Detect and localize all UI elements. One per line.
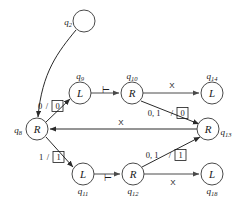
edge-label-x-bottom: X <box>170 178 176 187</box>
edge-label-write-0: 0 <box>55 101 59 111</box>
edge-label-q2-to-q8: 0 / 0 <box>38 101 63 112</box>
state-diagram-canvas: q2 R q8 L q9 R q10 L <box>0 0 235 208</box>
node-q14-label: q14 <box>207 71 219 82</box>
edge-label-q9-to-q10: ⊢ <box>102 85 110 95</box>
edge-label-q8-to-q11: 1 / 1 <box>39 152 64 163</box>
node-q18-letter: L <box>208 168 215 180</box>
edge-label-write-1: 1 <box>56 152 60 162</box>
edge-label-q10-to-q14: X <box>169 81 175 90</box>
edge-label-turnstile-bottom: ⊢ <box>104 173 112 183</box>
node-q11[interactable]: L q11 <box>72 163 94 197</box>
node-q9-label: q9 <box>76 71 85 82</box>
node-q10-letter: R <box>128 87 136 99</box>
edge-label-turnstile-top: ⊢ <box>102 85 110 95</box>
node-q8-letter: R <box>33 123 41 135</box>
node-q8[interactable]: R q8 <box>14 118 48 140</box>
edge-label-read-0: 0 <box>38 101 42 111</box>
node-q11-letter: L <box>79 168 86 180</box>
node-q8-label: q8 <box>14 125 23 136</box>
node-q12-letter: R <box>129 168 137 180</box>
node-q12-label: q12 <box>128 186 140 197</box>
node-q13-letter: R <box>204 123 212 135</box>
node-q11-label: q11 <box>78 186 89 197</box>
edge-label-q13-to-q8: X <box>118 118 124 127</box>
edge-label-q10-to-q13: 0, 1 / 0 <box>148 108 188 119</box>
edge-label-q11-to-q12: ⊢ <box>104 173 112 183</box>
slash-glyph: / <box>47 152 50 162</box>
node-q10[interactable]: R q10 <box>121 71 143 104</box>
edge-label-read-1: 1 <box>39 152 43 162</box>
slash-glyph: / <box>46 101 49 111</box>
node-q9[interactable]: L q9 <box>69 71 91 104</box>
node-q2-label: q2 <box>64 17 73 28</box>
edge-label-read-01-top: 0, 1 <box>148 108 161 118</box>
node-q13[interactable]: R q13 <box>197 118 232 140</box>
node-q14[interactable]: L q14 <box>201 71 223 104</box>
edge-label-x-top: X <box>169 81 175 90</box>
node-q12[interactable]: R q12 <box>122 163 144 197</box>
node-q18-label: q18 <box>207 186 219 197</box>
node-q2-circle[interactable] <box>73 10 95 32</box>
node-q2[interactable]: q2 <box>64 10 95 32</box>
edge-label-read-01-bottom: 0, 1 <box>146 150 159 160</box>
state-diagram: q2 R q8 L q9 R q10 L <box>0 0 235 208</box>
edge-label-q12-to-q18: X <box>170 178 176 187</box>
edge-label-write-1-bottom: 1 <box>178 150 182 160</box>
node-q13-label: q13 <box>221 127 233 138</box>
node-q14-letter: L <box>208 87 215 99</box>
slash-glyph: / <box>171 108 174 118</box>
node-q9-letter: L <box>76 87 83 99</box>
node-q18[interactable]: L q18 <box>201 163 223 197</box>
edge-label-x-middle: X <box>118 118 124 127</box>
node-q10-label: q10 <box>127 71 139 82</box>
edge-label-write-0-top: 0 <box>180 108 184 118</box>
